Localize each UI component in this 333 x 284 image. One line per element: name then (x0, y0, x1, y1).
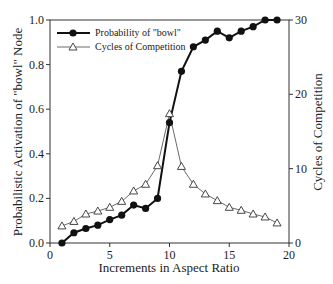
triangle-marker (58, 222, 66, 229)
circle-marker (190, 43, 197, 50)
triangle-marker (130, 187, 138, 194)
circle-marker (202, 36, 209, 43)
dual-axis-line-chart: 051015200.00.20.40.60.81.00102030 Probab… (0, 0, 333, 284)
y-axis-label: Probabilistic Activation of "bowl" Node (10, 28, 25, 237)
x-axis-label: Increments in Aspect Ratio (98, 260, 239, 275)
circle-marker (226, 34, 233, 41)
y2-tick-label: 30 (295, 13, 307, 27)
cycles-line (62, 114, 277, 226)
circle-marker (238, 28, 245, 35)
triangle-marker (273, 219, 281, 226)
circle-marker (118, 212, 125, 219)
triangle-marker (213, 197, 221, 204)
circle-marker (94, 222, 101, 229)
circle-marker (106, 216, 113, 223)
circle-marker (273, 16, 280, 23)
legend-marker-cycles (69, 43, 77, 50)
y2-tick-label: 20 (295, 87, 307, 101)
triangle-marker (201, 190, 209, 197)
y-tick-label: 1.0 (29, 13, 44, 27)
circle-marker (166, 119, 173, 126)
x-tick-label: 0 (47, 248, 53, 262)
legend: Probability of "bowl"Cycles of Competiti… (57, 27, 186, 52)
triangle-marker (189, 180, 197, 187)
triangle-marker (70, 217, 78, 224)
circle-marker (130, 201, 137, 208)
triangle-marker (225, 203, 233, 210)
triangle-marker (177, 162, 185, 169)
legend-label-cycles: Cycles of Competition (95, 41, 186, 52)
y2-tick-label: 0 (295, 236, 301, 250)
y-tick-label: 0.8 (29, 58, 44, 72)
triangle-marker (154, 162, 162, 169)
probability-line (62, 20, 277, 243)
legend-marker-probability (69, 29, 76, 36)
triangle-marker (106, 203, 114, 210)
y2-tick-label: 10 (295, 162, 307, 176)
circle-marker (178, 68, 185, 75)
y-tick-label: 0.4 (29, 147, 44, 161)
circle-marker (262, 16, 269, 23)
circle-marker (154, 195, 161, 202)
legend-label-probability: Probability of "bowl" (95, 27, 181, 38)
circle-marker (142, 205, 149, 212)
circle-marker (70, 229, 77, 236)
y-tick-label: 0.0 (29, 236, 44, 250)
y-tick-label: 0.6 (29, 102, 44, 116)
circle-marker (58, 239, 65, 246)
circle-marker (82, 225, 89, 232)
triangle-marker (142, 180, 150, 187)
circle-marker (250, 23, 257, 30)
y-tick-label: 0.2 (29, 191, 44, 205)
x-tick-label: 20 (283, 248, 295, 262)
y2-axis-label: Cycles of Competition (310, 73, 325, 191)
circle-marker (214, 28, 221, 35)
